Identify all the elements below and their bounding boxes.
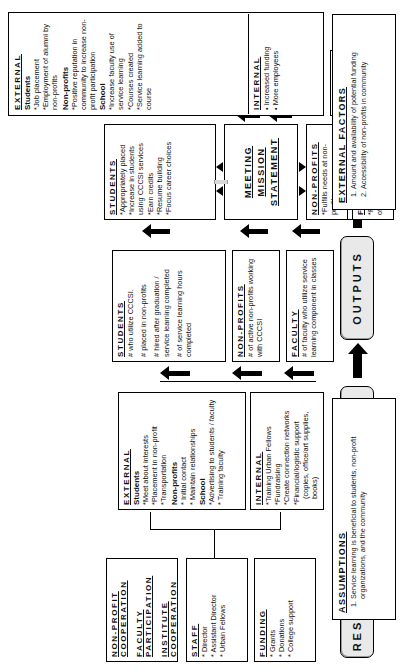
short-term-students-box: STUDENTS *Appropriately placed *Increase…	[104, 124, 216, 220]
external-factors-item-0: Amount and availability of potential fun…	[349, 15, 358, 189]
lt-external-0-item-0: *Job placement	[32, 18, 41, 110]
assumptions-list: Service learning is beneficial to studen…	[349, 399, 368, 613]
activities-external-2-item-1: * Training faculty	[216, 397, 225, 505]
lt-external-header: EXTERNAL	[13, 18, 22, 110]
lt-external-1-item-0: *Positive reputation in community to inc…	[70, 18, 98, 110]
staff-item-2: * Urban Fellows	[218, 563, 227, 657]
external-factors-list: Amount and availability of potential fun…	[349, 15, 369, 203]
lt-internal-item-1: • More employees	[271, 18, 280, 110]
staff-item-0: * Director	[200, 563, 209, 657]
outputs-students-item-0: # who utilize CCCSI.	[126, 255, 135, 357]
activities-external-1-item-0: * Initial contact	[179, 397, 188, 505]
activities-external-2-item-0: *Advertising to students / faculty	[207, 397, 216, 505]
mission-feed-arrow-bottom-2	[299, 162, 306, 172]
lt-external-group-2-name: School	[98, 18, 107, 110]
lt-external-2-item-2: *Service learning added to course	[135, 18, 153, 110]
assumptions-title: ASSUMPTIONS	[337, 399, 347, 613]
external-factors-item-1: Accessibility of non-profits in communit…	[359, 15, 368, 189]
activities-to-outputs-arrow-faculty	[292, 371, 314, 376]
lt-external-2-item-1: *Courses created	[126, 18, 135, 110]
mission-line-2: STATEMENT	[269, 138, 279, 206]
mission-feed-bar-top	[214, 180, 228, 184]
activities-internal-header: INTERNAL	[254, 397, 263, 505]
st-students-item-0: *Appropriately placed	[118, 129, 127, 215]
external-factors-panel: EXTERNAL FACTORS Amount and availability…	[332, 14, 396, 210]
long-term-external-box: EXTERNAL Students *Job placement *Employ…	[10, 14, 246, 114]
cooperation-item-1: FACULTY PARTICIPATION	[135, 563, 153, 657]
long-term-internal-box: INTERNAL • Increased funding • More empl…	[248, 14, 322, 114]
activities-to-outputs-arrow-nonprofits	[240, 371, 262, 376]
external-factors-title: EXTERNAL FACTORS	[337, 15, 347, 203]
lt-external-2-item-0: *Increase faculty use of service learnin…	[107, 18, 125, 110]
lt-external-group-1-name: Non-profits	[61, 18, 70, 110]
activities-internal-item-3: *Financial/logistic support (copies, off…	[292, 397, 320, 505]
activities-external-group-1-name: Non-profits	[170, 397, 179, 505]
activities-external-0-item-0: *Meet about interests	[141, 397, 150, 505]
activities-outputs-bus	[160, 381, 316, 382]
activities-internal-box: INTERNAL *Training Urban Fellows *Fundra…	[250, 392, 324, 510]
outputs-students-item-3: # of service learning hours completed	[175, 255, 193, 357]
st-students-header: STUDENTS	[108, 129, 117, 215]
resources-brace-h2	[150, 512, 151, 530]
cooperation-item-2: INSTITUTE COOPERATION	[160, 563, 178, 657]
lt-external-0-item-1: *Employment of alumni by non-profits	[41, 18, 59, 110]
resources-brace-v	[150, 529, 280, 530]
staff-header: STAFF	[190, 563, 199, 657]
lt-external-group-0-name: Students	[23, 18, 32, 110]
mission-line-0: MEETING	[243, 146, 253, 198]
outputs-students-box: STUDENTS # who utilize CCCSI. # placed i…	[112, 250, 226, 362]
resources-staff-box: STAFF * Director * Assistant Director * …	[186, 558, 248, 662]
lt-internal-header: INTERNAL	[252, 18, 261, 110]
assumptions-panel: ASSUMPTIONS Service learning is benefici…	[332, 398, 396, 620]
funding-item-2: * College support	[286, 563, 295, 657]
mission-feed-arrow-top-2	[216, 162, 223, 172]
outputs-faculty-header: FACULTY	[290, 255, 299, 357]
lt-internal-item-0: • Increased funding	[262, 18, 271, 110]
st-nonprofits-header: NON-PROFITS	[310, 129, 319, 215]
activities-external-0-item-2: *Transportation	[159, 397, 168, 505]
mission-feed-arrow-top-1	[216, 186, 223, 196]
resources-brace-h3	[280, 512, 281, 530]
resources-brace-h	[214, 530, 215, 558]
outputs-nonprofits-header: NON-PROFITS	[236, 255, 245, 357]
resources-cooperation-box: NON-PROFIT COOPERATION FACULTY PARTICIPA…	[106, 558, 178, 662]
assumptions-item-0: Service learning is beneficial to studen…	[349, 399, 368, 599]
activities-external-header: EXTERNAL	[122, 397, 131, 505]
outputs-to-outcomes-arrow-faculty	[300, 229, 320, 234]
funding-item-0: * Grants	[268, 563, 277, 657]
activities-external-0-item-1: *Placement in non-profit	[150, 397, 159, 505]
stage-chip-outputs[interactable]: OUTPUTS	[340, 236, 374, 340]
outputs-nonprofits-item-0: # of active non-profits working with CCC…	[246, 255, 264, 357]
outputs-faculty-box: FACULTY # of faculty who utilize service…	[286, 250, 334, 362]
resources-funding-box: FUNDING * Grants * Donations * College s…	[254, 558, 316, 662]
st-students-item-1: *Increase in students using CCCSI servic…	[127, 129, 145, 215]
outputs-students-item-2: # hired after graduation / service learn…	[152, 255, 170, 357]
activities-internal-item-2: *Create connection networks	[282, 397, 291, 505]
mission-statement-box: MEETING MISSION STATEMENT	[224, 124, 298, 220]
outputs-to-outcomes-arrow-nonprofits	[248, 229, 268, 234]
outputs-students-header: STUDENTS	[116, 255, 125, 357]
outputs-to-outcomes-arrow-students	[150, 229, 170, 234]
funding-item-1: * Donations	[277, 563, 286, 657]
outputs-nonprofits-box: NON-PROFITS # of active non-profits work…	[232, 250, 280, 362]
stage-label-outputs: OUTPUTS	[351, 251, 363, 325]
staff-item-1: * Assistant Director	[209, 563, 218, 657]
funding-header: FUNDING	[258, 563, 267, 657]
activities-external-group-0-name: Students	[132, 397, 141, 505]
activities-internal-item-0: *Training Urban Fellows	[264, 397, 273, 505]
st-students-item-4: *Focus career choices	[164, 129, 173, 215]
mission-line-1: MISSION	[256, 147, 266, 196]
stage-arrow-2	[353, 354, 362, 378]
st-students-item-2: *Earn credits	[146, 129, 155, 215]
cooperation-item-0: NON-PROFIT COOPERATION	[110, 563, 128, 657]
activities-external-box: EXTERNAL Students *Meet about interests …	[118, 392, 246, 510]
st-students-item-3: *Resume building	[155, 129, 164, 215]
activities-external-group-2-name: School	[198, 397, 207, 505]
outputs-faculty-item-0: # of faculty who utilize service learnin…	[300, 255, 318, 357]
activities-external-1-item-1: * Maintain relationships	[188, 397, 197, 505]
activities-internal-item-1: *Fundraising	[273, 397, 282, 505]
outputs-students-item-1: # placed in non-profits	[139, 255, 148, 357]
mission-feed-arrow-bottom-1	[299, 186, 306, 196]
activities-to-outputs-arrow-students	[168, 371, 190, 376]
